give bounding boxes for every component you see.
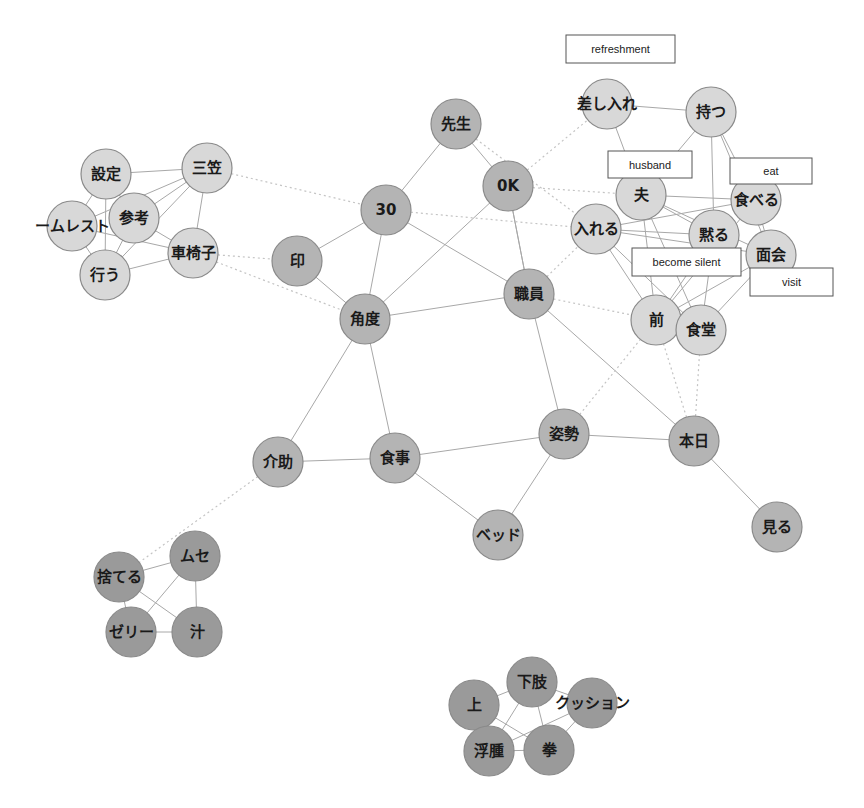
node-shiru[interactable]: 汁 xyxy=(172,607,222,657)
node-label: 拳 xyxy=(541,741,558,759)
node-label: 差し入れ xyxy=(577,95,637,113)
tag-visit: visit xyxy=(750,268,833,296)
node-kobushi[interactable]: 拳 xyxy=(524,725,574,775)
node-label: 設定 xyxy=(91,165,121,183)
node-honjitsu[interactable]: 本日 xyxy=(669,416,719,466)
tag-husband: husband xyxy=(608,151,692,178)
node-jelly[interactable]: ゼリー xyxy=(106,607,156,657)
node-label: 面会 xyxy=(756,246,786,264)
node-shisei[interactable]: 姿勢 xyxy=(539,409,589,459)
node-label: 姿勢 xyxy=(549,425,579,443)
node-n30[interactable]: 30 xyxy=(361,185,411,235)
node-label: 行う xyxy=(89,266,120,284)
node-kaijo[interactable]: 介助 xyxy=(253,437,303,487)
node-shokudou[interactable]: 食堂 xyxy=(676,305,726,355)
node-label: 持つ xyxy=(696,103,726,121)
node-label: 印 xyxy=(290,252,305,270)
node-label: 前 xyxy=(649,311,664,329)
node-label: ゼリー xyxy=(109,623,154,641)
node-ireru[interactable]: 入れる xyxy=(571,204,621,254)
node-label: 角度 xyxy=(350,310,381,328)
node-label: 30 xyxy=(376,201,397,219)
node-ue[interactable]: 上 xyxy=(449,680,499,730)
tag-label: refreshment xyxy=(591,43,650,55)
node-ok[interactable]: 0K xyxy=(483,161,533,211)
network-graph: 設定三笠参考ームレスト車椅子行う先生0K30印職員角度姿勢本日介助食事ベッド見る… xyxy=(0,0,864,808)
tag-label: husband xyxy=(629,159,671,171)
node-label: ームレスト xyxy=(35,217,110,235)
node-bed[interactable]: ベッド xyxy=(473,510,523,560)
node-label: 下肢 xyxy=(517,673,548,691)
tag-label: become silent xyxy=(653,256,721,268)
node-label: 車椅子 xyxy=(171,244,216,262)
node-label: 浮腫 xyxy=(474,742,504,760)
node-suteru[interactable]: 捨てる xyxy=(94,552,144,602)
node-sankou[interactable]: 参考 xyxy=(109,193,159,243)
node-label: 食事 xyxy=(380,449,410,467)
node-kakudo[interactable]: 角度 xyxy=(340,294,390,344)
node-label: 食堂 xyxy=(686,321,716,339)
edges-layer xyxy=(72,104,777,751)
node-shokuji[interactable]: 食事 xyxy=(370,433,420,483)
node-label: 汁 xyxy=(190,623,205,641)
node-kurumaisu[interactable]: 車椅子 xyxy=(168,228,218,278)
node-label: 介助 xyxy=(262,453,293,471)
node-mae[interactable]: 前 xyxy=(631,295,681,345)
node-label: 参考 xyxy=(119,209,149,227)
node-mikasa[interactable]: 三笠 xyxy=(182,143,232,193)
node-kashi[interactable]: 下肢 xyxy=(507,657,557,707)
node-label: クッション xyxy=(555,694,630,712)
node-okonau[interactable]: 行う xyxy=(80,250,130,300)
node-shokuin[interactable]: 職員 xyxy=(504,269,554,319)
node-label: 先生 xyxy=(441,115,471,133)
tag-label: eat xyxy=(763,165,778,177)
edge-shokuji-shisei xyxy=(395,434,564,458)
node-sensei[interactable]: 先生 xyxy=(431,99,481,149)
node-label: 三笠 xyxy=(192,159,222,177)
edge-n30-ireru xyxy=(386,210,596,229)
node-label: 黙る xyxy=(699,226,729,244)
tag-label: visit xyxy=(782,276,801,288)
node-label: ベッド xyxy=(476,526,521,544)
node-motsu[interactable]: 持つ xyxy=(686,87,736,137)
tag-become-silent: become silent xyxy=(632,248,741,276)
node-label: 入れる xyxy=(574,220,619,238)
nodes-layer: 設定三笠参考ームレスト車椅子行う先生0K30印職員角度姿勢本日介助食事ベッド見る… xyxy=(35,79,803,776)
node-settei[interactable]: 設定 xyxy=(81,149,131,199)
node-label: 本日 xyxy=(679,432,709,450)
node-label: 捨てる xyxy=(97,568,142,586)
node-label: 0K xyxy=(497,177,520,195)
edge-mikasa-n30 xyxy=(207,168,386,210)
node-miru[interactable]: 見る xyxy=(752,502,802,552)
node-muse[interactable]: ムセ xyxy=(170,531,220,581)
node-label: 職員 xyxy=(514,285,544,303)
node-label: 上 xyxy=(467,696,482,714)
node-label: ムセ xyxy=(180,547,210,565)
node-fushu[interactable]: 浮腫 xyxy=(464,726,514,776)
node-label: 食べる xyxy=(734,191,779,209)
tag-refreshment: refreshment xyxy=(566,35,675,63)
tag-eat: eat xyxy=(730,158,812,184)
node-cushion[interactable]: クッション xyxy=(555,678,630,728)
node-label: 夫 xyxy=(634,186,650,204)
node-in[interactable]: 印 xyxy=(272,236,322,286)
node-label: 見る xyxy=(761,518,792,536)
node-homeless[interactable]: ームレスト xyxy=(35,201,110,251)
